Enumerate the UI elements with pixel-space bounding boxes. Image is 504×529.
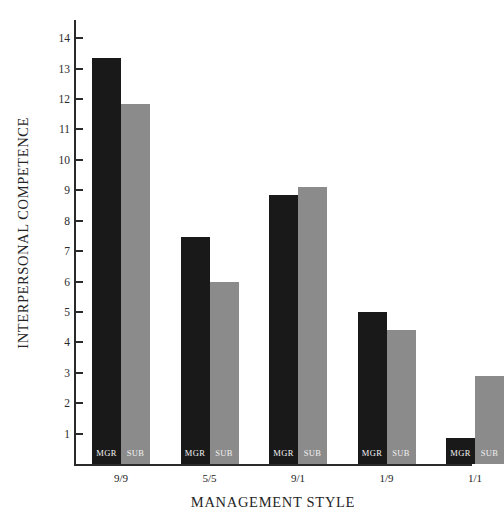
y-tick-label: 11	[59, 123, 70, 135]
y-axis-title: INTERPERSONAL COMPETENCE	[8, 0, 38, 466]
x-tick-label-1-1: 1/1	[446, 472, 504, 484]
bar-9-9-sub: SUB	[121, 104, 150, 464]
bar-1-9-mgr: MGR	[358, 312, 387, 464]
bar-series-label: SUB	[387, 448, 416, 458]
bar-5-5-sub: SUB	[210, 282, 239, 464]
y-tick-label: 14	[59, 32, 71, 44]
bar-series-group: MGRSUBMGRSUBMGRSUBMGRSUBMGRSUB	[74, 20, 472, 466]
y-tick-label: 3	[64, 367, 70, 379]
x-tick-label-9-9: 9/9	[92, 472, 150, 484]
y-tick-label: 6	[64, 276, 70, 288]
y-tick-label: 10	[59, 154, 71, 166]
bar-series-label: SUB	[298, 448, 327, 458]
x-tick-label-9-1: 9/1	[269, 472, 327, 484]
y-tick-label: 1	[64, 428, 70, 440]
plot-area: 1234567891011121314 MGRSUBMGRSUBMGRSUBMG…	[74, 20, 472, 466]
y-tick-label: 4	[64, 336, 70, 348]
bar-1-9-sub: SUB	[387, 330, 416, 464]
bar-series-label: SUB	[475, 448, 504, 458]
y-tick-label: 9	[64, 184, 70, 196]
bar-9-1-sub: SUB	[298, 187, 327, 464]
bar-9-1-mgr: MGR	[269, 195, 298, 464]
x-tick-label-1-9: 1/9	[358, 472, 416, 484]
x-axis-title: MANAGEMENT STYLE	[74, 494, 472, 511]
y-axis-title-text: INTERPERSONAL COMPETENCE	[15, 117, 32, 349]
x-tick-label-5-5: 5/5	[181, 472, 239, 484]
bar-1-1-sub: SUB	[475, 376, 504, 464]
y-tick-label: 8	[64, 215, 70, 227]
bar-series-label: MGR	[92, 448, 121, 458]
bar-series-label: MGR	[269, 448, 298, 458]
bar-1-1-mgr: MGR	[446, 438, 475, 464]
bar-series-label: MGR	[181, 448, 210, 458]
y-tick-label: 7	[64, 245, 70, 257]
bar-series-label: SUB	[121, 448, 150, 458]
bar-series-label: MGR	[446, 448, 475, 458]
y-tick-label: 5	[64, 306, 70, 318]
bar-series-label: MGR	[358, 448, 387, 458]
bar-9-9-mgr: MGR	[92, 58, 121, 464]
y-tick-label: 12	[59, 93, 71, 105]
bar-5-5-mgr: MGR	[181, 237, 210, 464]
y-tick-label: 2	[64, 397, 70, 409]
y-tick-label: 13	[59, 63, 71, 75]
bar-series-label: SUB	[210, 448, 239, 458]
